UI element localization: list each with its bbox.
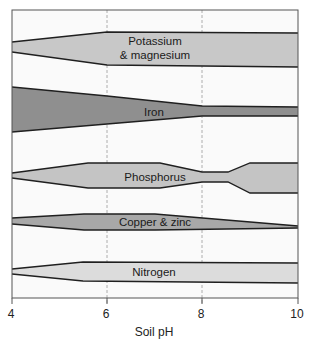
tick-label-8: 8 [198, 307, 205, 321]
tick-label-10: 10 [290, 307, 304, 321]
tick-label-6: 6 [103, 307, 110, 321]
x-axis-title: Soil pH [135, 325, 174, 339]
band-label-copper-zinc: Copper & zinc [119, 216, 191, 228]
x-axis: 4 6 8 10 Soil pH [8, 298, 304, 339]
band-label-nitrogen: Nitrogen [132, 266, 175, 278]
band-label-magnesium: & magnesium [120, 49, 190, 61]
band-label-phosphorus: Phosphorus [124, 171, 186, 183]
band-label-potassium: Potassium [128, 35, 182, 47]
tick-label-4: 4 [8, 307, 15, 321]
nutrient-availability-diagram: Potassium & magnesium Iron Phosphorus Co… [0, 0, 315, 347]
band-label-iron: Iron [144, 106, 164, 118]
